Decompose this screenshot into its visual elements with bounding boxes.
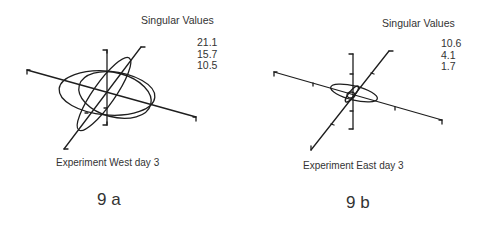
figure-label: 9 a: [97, 190, 121, 210]
singular-value: 10.5: [197, 60, 217, 72]
axis-1-end-left: [274, 72, 277, 76]
singular-values-list: 21.1 15.7 10.5: [197, 37, 217, 72]
figure-caption: Experiment East day 3: [303, 160, 404, 171]
singular-value: 1.7: [441, 61, 461, 73]
axis-1-end-left: [27, 70, 30, 74]
axis-1: [274, 72, 442, 120]
singular-value: 10.6: [441, 38, 461, 50]
singular-values-title: Singular Values: [141, 14, 214, 26]
axis-2-end-bottom: [103, 122, 107, 125]
singular-values-title: Singular Values: [382, 17, 455, 29]
singular-values-list: 10.6 4.1 1.7: [441, 38, 461, 73]
axis-1-end-right: [193, 117, 196, 121]
axis-1-end-right: [439, 120, 442, 124]
figure-9b: Singular Values 10.6 4.1 1.7 Experiment …: [241, 0, 482, 235]
singular-value: 21.1: [197, 37, 217, 49]
axis-2-end-top: [103, 50, 107, 53]
axis-1: [27, 70, 196, 117]
figure-label: 9 b: [346, 193, 370, 213]
figure-9a: Singular Values 21.1 15.7 10.5 Experimen…: [0, 0, 241, 235]
figure-caption: Experiment West day 3: [56, 157, 159, 168]
